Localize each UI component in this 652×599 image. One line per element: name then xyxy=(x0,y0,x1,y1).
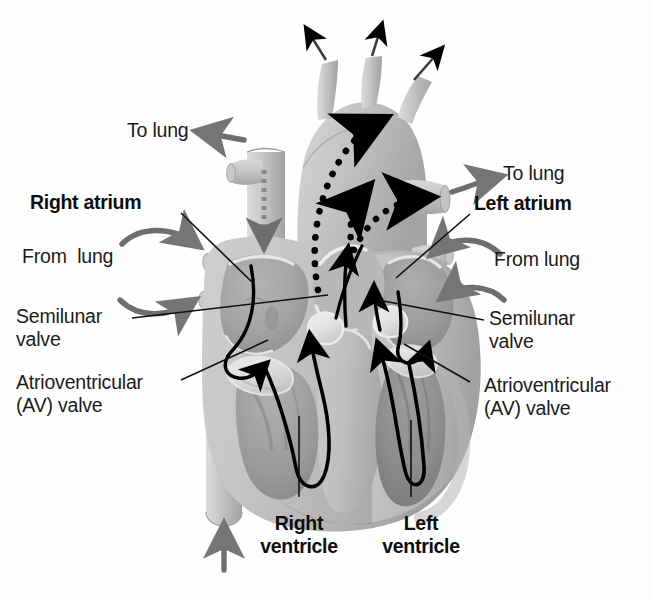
label-right-ventricle: Right ventricle xyxy=(236,512,362,558)
label-left-ventricle: Left ventricle xyxy=(362,512,480,558)
label-to-lung-left: To lung xyxy=(127,119,188,142)
right-semilunar-valve xyxy=(308,312,343,344)
av-valve-left-line1: Atrioventricular xyxy=(16,371,143,394)
label-to-lung-right: To lung xyxy=(503,162,564,185)
label-left-atrium: Left atrium xyxy=(474,192,571,215)
right-ventricle-line2: ventricle xyxy=(236,535,362,558)
av-valve-right-line1: Atrioventricular xyxy=(484,374,611,397)
left-ventricle-line1: Left xyxy=(362,512,480,535)
label-from-lung-right: From lung xyxy=(494,248,580,271)
label-semilunar-valve-right: Semilunar valve xyxy=(489,307,575,353)
left-ventricle-line2: ventricle xyxy=(362,535,480,558)
semilunar-left-line2: valve xyxy=(16,328,102,351)
pulmonary-artery-left-branch xyxy=(227,159,262,185)
heart-illustration xyxy=(0,0,652,599)
label-from-lung-left: From lung xyxy=(22,245,113,268)
semilunar-right-line1: Semilunar xyxy=(489,307,575,330)
av-valve-left-line2: (AV) valve xyxy=(16,394,143,417)
label-av-valve-left: Atrioventricular (AV) valve xyxy=(16,371,143,417)
right-ventricle-line1: Right xyxy=(236,512,362,535)
label-semilunar-valve-left: Semilunar valve xyxy=(16,305,102,351)
av-valve-right-line2: (AV) valve xyxy=(484,397,611,420)
semilunar-right-line2: valve xyxy=(489,330,575,353)
heart-diagram-page: To lung To lung Right atrium Left atrium… xyxy=(0,0,652,599)
semilunar-left-line1: Semilunar xyxy=(16,305,102,328)
label-av-valve-right: Atrioventricular (AV) valve xyxy=(484,374,611,420)
label-right-atrium: Right atrium xyxy=(30,191,141,214)
